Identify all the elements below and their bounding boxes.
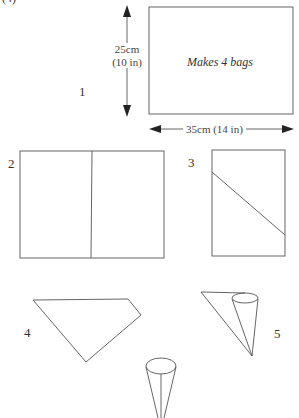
diagram-canvas bbox=[0, 0, 299, 418]
step5-cone bbox=[201, 292, 258, 356]
step-number-5: 5 bbox=[274, 327, 281, 340]
height-cm: 25cm bbox=[108, 43, 146, 56]
width-dimension-label: 35cm (14 in) bbox=[183, 123, 246, 136]
height-dimension-label: 25cm (10 in) bbox=[108, 43, 146, 68]
arrow-left-icon bbox=[149, 125, 161, 133]
arrow-right-icon bbox=[282, 125, 294, 133]
step6-finished-cone bbox=[146, 358, 176, 418]
height-in: (10 in) bbox=[108, 56, 146, 69]
arrow-down-icon bbox=[123, 105, 131, 117]
step-number-2: 2 bbox=[8, 157, 15, 170]
step1-note: Makes 4 bags bbox=[187, 55, 253, 70]
step3-diagonal-line bbox=[212, 172, 285, 235]
header-partial-text: (4) bbox=[2, 0, 16, 4]
step-number-1: 1 bbox=[79, 85, 86, 98]
step4-folded-shape bbox=[33, 299, 141, 362]
step2-fold-line bbox=[91, 151, 92, 258]
step-number-4: 4 bbox=[24, 326, 31, 339]
step-number-3: 3 bbox=[188, 156, 195, 169]
arrow-up-icon bbox=[123, 5, 131, 17]
